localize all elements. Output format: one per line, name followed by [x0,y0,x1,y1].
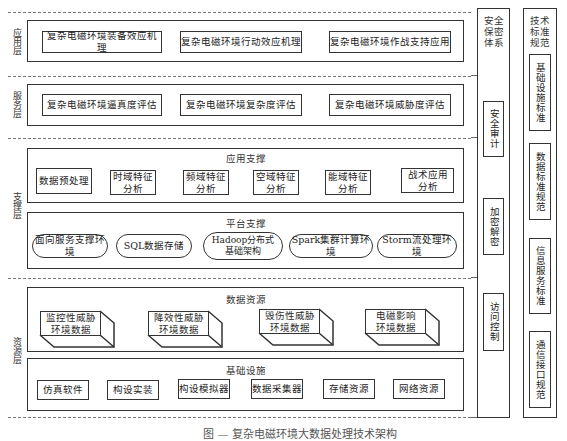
layer-label-support: 支撑层 [8,192,22,219]
layer-separator [8,278,471,279]
platform-support-item: SQL数据存储 [116,234,192,258]
data-resource-cube: 电磁影响 环境数据 [365,309,443,345]
application-item: 复杂电磁环境装备效应机理 [42,31,162,53]
cube-label: 毁伤性威胁 环境数据 [259,309,320,334]
layer-separator [8,12,471,13]
infrastructure-title: 基础设施 [226,363,266,377]
application-item: 复杂电磁环境作战支持应用 [329,31,451,53]
security-item: 安全审计 [483,101,504,157]
security-system-title: 安全 保密 体系 [480,15,508,48]
data-resource-cube: 毁伤性威胁 环境数据 [259,309,337,345]
app-support-item: 空域特征 分析 [253,170,299,195]
data-resources-title: 数据资源 [226,292,266,306]
layer-label-service: 服务层 [8,91,22,118]
connector-tick [471,137,477,138]
security-item: 访问控制 [483,293,504,351]
infrastructure-item: 数据采集器 [251,379,303,399]
platform-support-item: Storm流处理环境 [377,234,457,258]
data-resource-cube: 降效性威胁 环境数据 [148,311,226,347]
figure-caption: 图 — 复杂电磁环境大数据处理技术架构 [150,425,450,441]
infrastructure-item: 网络资源 [393,379,445,399]
infrastructure-item: 构设模拟器 [178,379,230,399]
standards-item: 基础设施标准 [529,54,551,131]
app-support-title: 应用支撑 [226,151,266,165]
cube-label: 电磁影响 环境数据 [365,309,426,334]
layer-separator [8,138,471,139]
service-item: 复杂电磁环境威胁度评估 [329,94,451,116]
data-resource-cube: 监控性威胁 环境数据 [40,311,118,347]
platform-support-title: 平台支撑 [226,216,266,230]
app-support-item: 能域特征 分析 [325,170,371,195]
standards-item: 数据标准规范 [529,143,551,220]
connector-tick [471,75,477,76]
cube-label: 降效性威胁 环境数据 [148,311,209,336]
technical-standards-title: 技术 标准 规范 [526,15,554,48]
application-item: 复杂电磁环境行动效应机理 [180,31,302,53]
app-support-item: 战术应用 分析 [401,168,454,193]
layer-separator [8,417,471,418]
security-item: 加密解密 [483,198,504,255]
app-support-item: 频域特征 分析 [183,170,229,195]
app-support-item: 时域特征 分析 [110,170,156,195]
platform-support-item: 面向服务支撑环境 [32,234,108,258]
app-support-item: 数据预处理 [36,168,92,194]
standards-item: 信息服务标准 [529,238,551,314]
platform-support-item: Spark集群计算环境 [289,234,373,258]
platform-support-item: Hadoop分布式 基础架构 [203,232,283,260]
connector-tick [471,417,477,418]
layer-label-resource: 资源层 [8,337,22,364]
infrastructure-item: 存储资源 [323,379,375,399]
layer-label-application: 应用层 [8,28,22,55]
infrastructure-item: 仿真软件 [37,380,89,400]
cube-label: 监控性威胁 环境数据 [40,311,101,336]
service-item: 复杂电磁环境逼真度评估 [42,94,162,116]
connector-tick [471,277,477,278]
service-item: 复杂电磁环境复杂度评估 [180,94,302,116]
infrastructure-item: 构设实装 [107,380,159,400]
standards-item: 通信接口规范 [529,331,551,408]
layer-separator [8,76,471,77]
